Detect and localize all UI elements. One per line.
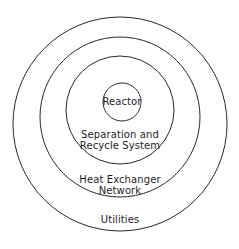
separation-label-line1: Separation and: [70, 129, 170, 140]
heat-exchanger-label-line2: Network: [70, 185, 170, 196]
heat-exchanger-label-line1: Heat Exchanger: [70, 174, 170, 185]
utilities-label: Utilities: [80, 214, 160, 225]
utilities-ring: [13, 17, 227, 231]
onion-diagram: [0, 0, 239, 249]
reactor-label: Reactor: [102, 96, 142, 107]
heat-exchanger-ring: [40, 37, 200, 197]
separation-label-line2: Recycle System: [70, 140, 170, 151]
